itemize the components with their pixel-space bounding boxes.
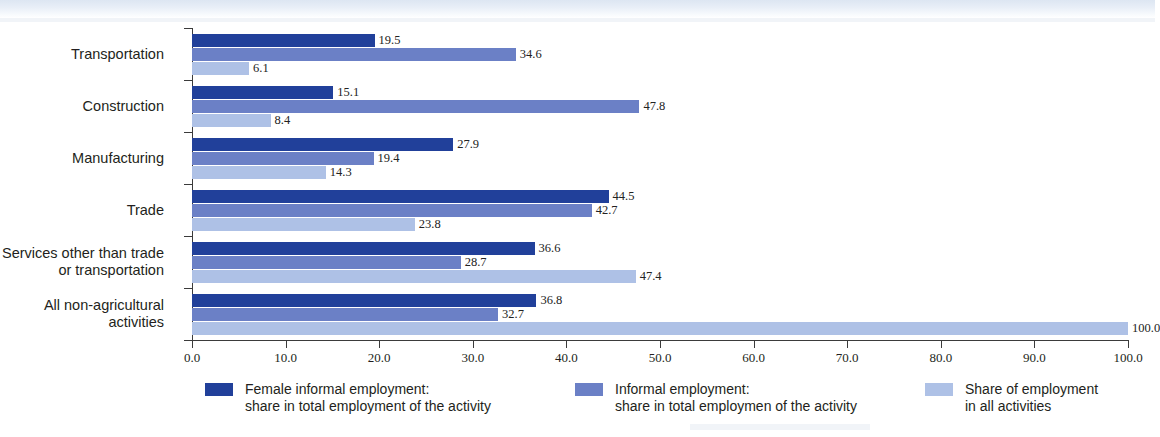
- bar-value-label: 28.7: [461, 256, 487, 269]
- legend-item-2[interactable]: Share of employment in all activities: [925, 381, 1098, 415]
- legend-item-1[interactable]: Informal employment: share in total empl…: [575, 381, 857, 415]
- x-axis-tick: [192, 341, 193, 348]
- y-axis-tick: [184, 236, 193, 237]
- x-axis-tick: [379, 341, 380, 348]
- bar-5-0: [192, 294, 536, 307]
- bar-4-0: [192, 242, 535, 255]
- legend-label: Share of employment in all activities: [965, 381, 1098, 415]
- x-axis-tick-label: 40.0: [555, 350, 578, 366]
- x-axis-tick: [847, 341, 848, 348]
- bar-value-label: 19.4: [374, 152, 400, 165]
- bar-value-label: 47.8: [639, 100, 665, 113]
- legend-swatch-icon: [575, 383, 603, 396]
- scan-artifact: [0, 18, 1155, 22]
- category-label-5: All non-agricultural activities: [0, 297, 178, 331]
- bar-value-label: 14.3: [326, 166, 352, 179]
- bar-2-2: [192, 166, 326, 179]
- x-axis-tick-label: 60.0: [742, 350, 765, 366]
- chart-legend: Female informal employment: share in tot…: [0, 381, 1155, 425]
- bar-value-label: 8.4: [271, 114, 291, 127]
- category-label-2: Manufacturing: [0, 150, 178, 167]
- category-label-3: Trade: [0, 202, 178, 219]
- x-axis-tick: [473, 341, 474, 348]
- x-axis-tick: [1128, 341, 1129, 348]
- bar-5-1: [192, 308, 498, 321]
- bar-value-label: 44.5: [609, 190, 635, 203]
- bar-1-0: [192, 86, 333, 99]
- bar-3-2: [192, 218, 415, 231]
- x-axis-tick-label: 90.0: [1023, 350, 1046, 366]
- y-axis-tick: [184, 28, 193, 29]
- bar-3-0: [192, 190, 609, 203]
- bar-4-1: [192, 256, 461, 269]
- bar-4-2: [192, 270, 636, 283]
- y-axis-tick: [184, 288, 193, 289]
- category-label-1: Construction: [0, 98, 178, 115]
- bar-value-label: 27.9: [453, 138, 479, 151]
- bar-0-2: [192, 62, 249, 75]
- bar-value-label: 36.8: [536, 294, 562, 307]
- bar-value-label: 100.0: [1128, 322, 1160, 335]
- bar-value-label: 15.1: [333, 86, 359, 99]
- bar-1-2: [192, 114, 271, 127]
- bar-0-1: [192, 48, 516, 61]
- bar-value-label: 32.7: [498, 308, 524, 321]
- legend-label: Informal employment: share in total empl…: [615, 381, 857, 415]
- bar-0-0: [192, 34, 375, 47]
- bar-value-label: 47.4: [636, 270, 662, 283]
- bar-5-2: [192, 322, 1128, 335]
- x-axis-tick-label: 100.0: [1113, 350, 1142, 366]
- bar-value-label: 6.1: [249, 62, 269, 75]
- y-axis-tick: [184, 80, 193, 81]
- x-axis-tick-label: 30.0: [461, 350, 484, 366]
- bar-2-0: [192, 138, 453, 151]
- legend-swatch-icon: [205, 383, 233, 396]
- category-label-0: Transportation: [0, 46, 178, 63]
- bar-value-label: 34.6: [516, 48, 542, 61]
- legend-label: Female informal employment: share in tot…: [245, 381, 491, 415]
- x-axis-tick: [660, 341, 661, 348]
- x-axis-tick: [286, 341, 287, 348]
- x-axis-tick: [754, 341, 755, 348]
- category-axis-labels: TransportationConstructionManufacturingT…: [0, 28, 178, 340]
- bar-2-1: [192, 152, 374, 165]
- bar-value-label: 36.6: [535, 242, 561, 255]
- bar-3-1: [192, 204, 592, 217]
- x-axis-tick: [566, 341, 567, 348]
- y-axis-tick: [184, 184, 193, 185]
- x-axis-tick-label: 50.0: [649, 350, 672, 366]
- bar-1-1: [192, 100, 639, 113]
- bar-value-label: 19.5: [375, 34, 401, 47]
- bar-value-label: 23.8: [415, 218, 441, 231]
- x-axis-tick-label: 0.0: [184, 350, 200, 366]
- bar-value-label: 42.7: [592, 204, 618, 217]
- x-axis-tick-label: 70.0: [836, 350, 859, 366]
- legend-swatch-icon: [925, 383, 953, 396]
- x-axis-tick-label: 10.0: [274, 350, 297, 366]
- x-axis-tick-label: 80.0: [929, 350, 952, 366]
- x-axis-tick: [941, 341, 942, 348]
- x-axis-tick-label: 20.0: [368, 350, 391, 366]
- plot-area: 19.534.66.115.147.88.427.919.414.344.542…: [192, 28, 1128, 340]
- x-axis-tick: [1034, 341, 1035, 348]
- y-axis-tick: [184, 132, 193, 133]
- legend-item-0[interactable]: Female informal employment: share in tot…: [205, 381, 491, 415]
- category-label-4: Services other than trade or transportat…: [0, 245, 178, 279]
